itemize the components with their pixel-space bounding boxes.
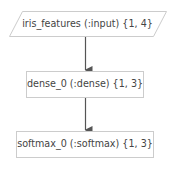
node-iris-features-label: iris_features (:input) {1, 4} [9, 18, 166, 30]
node-softmax-0-label: softmax_0 (:softmax) {1, 3} [16, 138, 154, 150]
node-dense-0-label: dense_0 (:dense) {1, 3} [26, 78, 144, 90]
